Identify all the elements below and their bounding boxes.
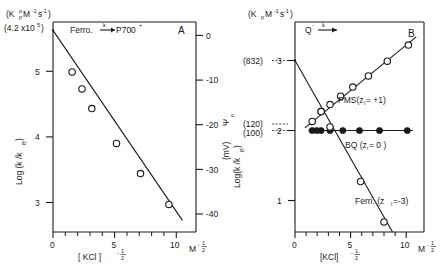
bq-label: BQ (z xyxy=(345,140,367,150)
panel-a-mv: (mV) xyxy=(221,141,231,160)
svg-text:): ) xyxy=(48,9,51,19)
panel-a-xlabel-text: [ KCl ] xyxy=(78,252,101,262)
svg-text:(K: (K xyxy=(248,9,257,19)
figure-root: (K p o M -1 s -1 ) (4.2 x10 5 ) 5 4 3 xyxy=(0,0,441,265)
svg-text:-: - xyxy=(351,250,353,256)
data-point xyxy=(327,124,333,130)
panel-a-xtick-0: 0 xyxy=(50,240,55,250)
panel-a-units-label: (K p o M -1 s -1 ) xyxy=(6,8,51,20)
panel-a-title: Ferro. k P700 + xyxy=(70,22,142,35)
data-point xyxy=(357,178,363,184)
data-point xyxy=(318,108,324,114)
panel-a-rate-symbol: k xyxy=(103,22,106,28)
data-point xyxy=(79,86,85,92)
svg-text:-1: -1 xyxy=(42,8,47,14)
annotation-100: (100) xyxy=(243,128,263,138)
panel-b-ytick-1: 1 xyxy=(277,196,282,206)
panel-a-xlabel: [ KCl ] - 1 2 M - 1 2 xyxy=(78,240,207,262)
data-point xyxy=(52,30,53,31)
panel-a-rtick-30: -30 xyxy=(206,165,219,175)
data-point xyxy=(327,101,333,107)
svg-text:(K: (K xyxy=(6,9,15,19)
svg-text:): ) xyxy=(232,145,242,148)
svg-text:-: - xyxy=(427,242,429,248)
data-point xyxy=(137,170,143,176)
panel-a-fit-line xyxy=(53,30,182,220)
svg-text:-1: -1 xyxy=(32,8,37,14)
data-point xyxy=(365,73,371,79)
svg-text:1: 1 xyxy=(121,248,124,254)
data-point xyxy=(350,84,356,90)
svg-text:Log(k /k: Log(k /k xyxy=(232,157,242,188)
panel-b-xtick-0: 0 xyxy=(292,240,297,250)
panel-a-rtick-0: 0 xyxy=(206,31,211,41)
svg-text:): ) xyxy=(14,138,24,141)
svg-text:5: 5 xyxy=(37,22,40,28)
svg-text:2: 2 xyxy=(431,247,434,253)
panel-a-psi-symbol: Ψ xyxy=(221,119,231,126)
data-point xyxy=(309,118,315,124)
data-point xyxy=(294,60,295,61)
svg-text:): ) xyxy=(290,9,293,19)
svg-text:2: 2 xyxy=(355,255,358,261)
figure-svg: (K p o M -1 s -1 ) (4.2 x10 5 ) 5 4 3 xyxy=(0,0,441,265)
svg-text:M: M xyxy=(265,9,272,19)
panel-a-right-ticks: 0 -10 -20 -30 -40 xyxy=(196,31,219,220)
panel-a-rtick-40: -40 xyxy=(206,209,219,219)
panel-b-title-text: Q xyxy=(305,25,312,35)
svg-text:M: M xyxy=(23,9,30,19)
data-point xyxy=(318,128,324,134)
svg-text:1: 1 xyxy=(431,240,434,246)
data-point xyxy=(357,128,363,134)
panel-b-xlabel-text: [KCl] xyxy=(320,252,338,262)
panel-a-xtick-5: 5 xyxy=(112,240,117,250)
panel-a: (K p o M -1 s -1 ) (4.2 x10 5 ) 5 4 3 xyxy=(4,8,235,262)
data-point xyxy=(340,128,346,134)
panel-b: (K p M -1 s -1 ) 3 2 1 (832) (120) xyxy=(232,8,436,262)
svg-text:1: 1 xyxy=(202,240,205,246)
panel-b-x-ticks: 0 5 10 xyxy=(292,232,410,250)
bq-label-end: = 0 ) xyxy=(369,140,386,150)
panel-a-y-ticks: 5 4 3 xyxy=(35,67,53,208)
panel-a-ytick-4: 4 xyxy=(35,132,40,142)
pms-label-end: = +1) xyxy=(366,95,386,105)
panel-a-ytick-5: 5 xyxy=(35,67,40,77)
panel-a-title-product-sup: + xyxy=(139,22,142,28)
data-point xyxy=(166,201,172,207)
svg-text:-1: -1 xyxy=(274,8,279,14)
panel-b-rate-symbol: k xyxy=(322,22,325,28)
data-point xyxy=(384,58,390,64)
panel-b-xtick-10: 10 xyxy=(400,240,410,250)
annotation-832: (832) xyxy=(243,56,263,66)
svg-text:(4.2 x10: (4.2 x10 xyxy=(4,23,35,33)
panel-a-xtick-10: 10 xyxy=(170,240,180,250)
panel-a-ytick-3: 3 xyxy=(35,198,40,208)
panel-a-rtick-20: -20 xyxy=(206,120,219,130)
panel-b-xtick-5: 5 xyxy=(348,240,353,250)
panel-a-kp-sub: p xyxy=(19,14,22,20)
panel-b-xunit: M xyxy=(418,244,425,254)
svg-text:-: - xyxy=(198,242,200,248)
panel-b-xlabel: [KCl] - 1 2 M - 1 2 xyxy=(320,240,436,262)
pms-label: PMS(z xyxy=(338,95,364,105)
panel-a-data xyxy=(52,30,182,221)
svg-text:Log (k /k: Log (k /k xyxy=(14,152,24,185)
data-point xyxy=(405,42,411,48)
svg-text:-1: -1 xyxy=(284,8,289,14)
data-point xyxy=(381,219,387,225)
panel-a-rtick-10: -10 xyxy=(206,75,219,85)
panel-b-ylabel: Log(k /k B ) xyxy=(232,145,245,188)
panel-a-intercept-label: (4.2 x10 5 ) xyxy=(4,22,44,33)
panel-b-label: B xyxy=(408,28,415,39)
svg-text:-: - xyxy=(117,250,119,256)
svg-text:p: p xyxy=(261,14,264,20)
panel-a-xunit: M xyxy=(189,244,196,254)
data-point xyxy=(377,128,383,134)
data-point xyxy=(113,140,119,146)
panel-b-title: Q - k xyxy=(305,22,337,35)
panel-a-right-axis-label: Ψ o (mV) xyxy=(221,114,235,160)
ferri-label-end: =-3) xyxy=(393,196,409,206)
panel-b-title-sup: - xyxy=(312,22,314,28)
panel-a-ylabel: Log (k /k B ) xyxy=(14,138,27,185)
svg-text:2: 2 xyxy=(121,255,124,261)
